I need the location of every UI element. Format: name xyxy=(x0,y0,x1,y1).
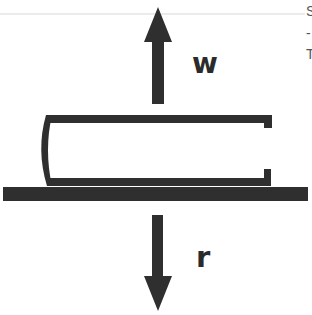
ground-surface xyxy=(3,187,308,201)
bracket-shape xyxy=(41,115,272,186)
upward-force-arrow xyxy=(144,7,172,104)
downward-force-arrow xyxy=(144,215,172,311)
force-label-r: r xyxy=(196,243,210,272)
clipped-text-line-2: - xyxy=(306,26,311,40)
clipped-text-line-1: S xyxy=(306,4,312,18)
force-diagram xyxy=(0,0,312,315)
force-label-w: w xyxy=(192,50,218,78)
clipped-text-line-3: T xyxy=(306,47,312,61)
